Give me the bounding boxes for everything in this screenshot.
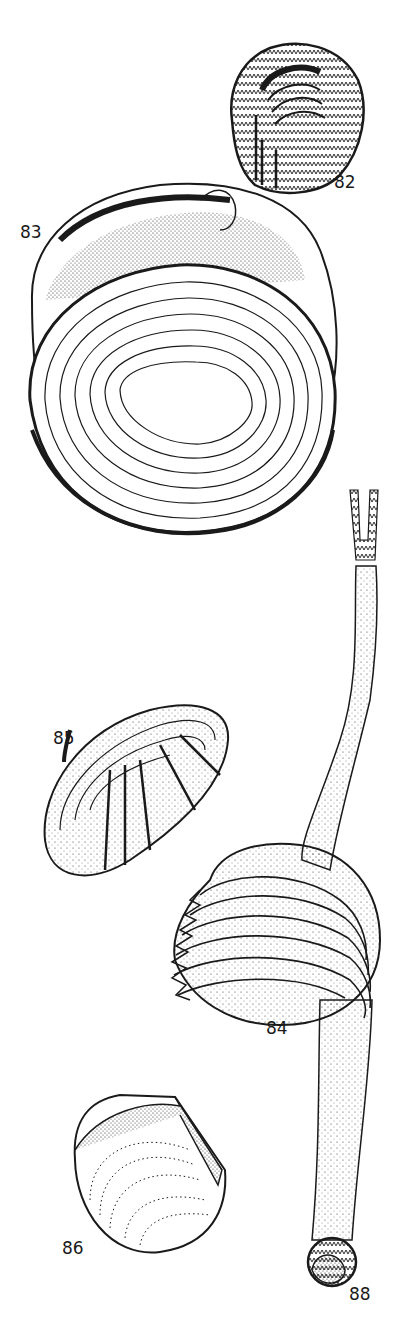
figure-label-86: 86 bbox=[62, 1238, 84, 1258]
figure-label-88: 88 bbox=[349, 1284, 371, 1304]
shell-drawings bbox=[0, 0, 401, 1318]
illustration-plate: 82 83 84 85 86 88 bbox=[0, 0, 401, 1318]
shell-83 bbox=[30, 184, 337, 534]
figure-label-83: 83 bbox=[20, 222, 42, 242]
shell-84 bbox=[172, 844, 380, 1025]
figure-label-84: 84 bbox=[266, 1018, 288, 1038]
shell-86 bbox=[75, 1095, 226, 1253]
shell-88 bbox=[308, 1238, 356, 1286]
shell-82 bbox=[231, 44, 363, 193]
figure-label-82: 82 bbox=[334, 172, 356, 192]
figure-label-85: 85 bbox=[53, 728, 75, 748]
